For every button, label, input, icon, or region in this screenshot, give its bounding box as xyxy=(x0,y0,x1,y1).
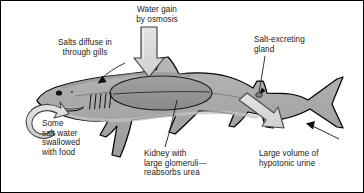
eye xyxy=(56,90,62,95)
label-large-volume-hypotonic-urine: Large volume of hypotonic urine xyxy=(259,149,359,168)
shark-osmoregulation-figure: Water gain by osmosis Salts diffuse in t… xyxy=(0,0,364,193)
label-salt-excreting-gland: Salt-excreting gland xyxy=(254,35,354,54)
label-some-salt-water-swallowed-with-food: Some salt water swallowed with food xyxy=(42,119,122,157)
label-salts-diffuse-in-through-gills: Salts diffuse in through gills xyxy=(32,38,138,57)
spiracle xyxy=(71,91,73,93)
label-kidney-with-large-glomeruli: Kidney with large glomeruli— reabsorbs u… xyxy=(144,149,250,178)
salt-gland-marker xyxy=(256,93,263,98)
label-water-gain-by-osmosis: Water gain by osmosis xyxy=(111,5,203,24)
